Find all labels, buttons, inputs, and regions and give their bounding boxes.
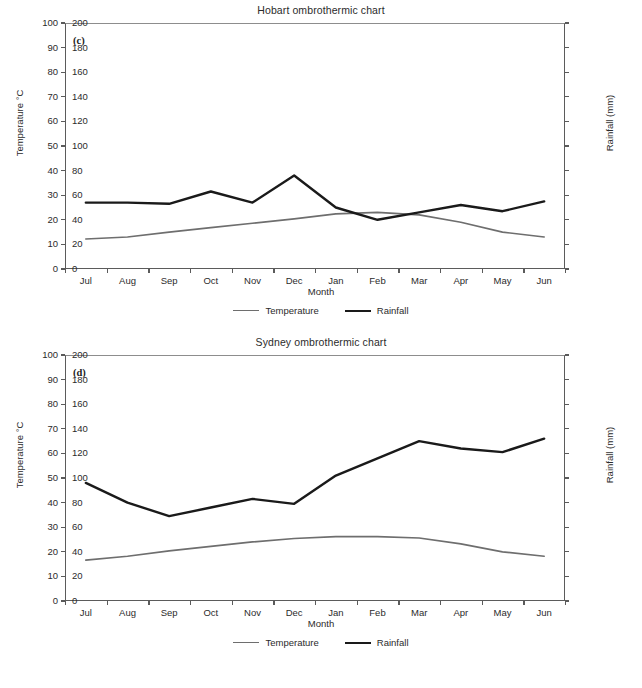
x-axis-tick bbox=[398, 269, 399, 273]
x-axis-tick bbox=[107, 269, 108, 273]
tick-mark bbox=[565, 477, 569, 478]
y-axis-left-tick-label: 30 bbox=[47, 190, 58, 200]
x-axis-tick-label: Jan bbox=[328, 275, 343, 286]
y-axis-left-tick-label: 10 bbox=[47, 239, 58, 249]
legend: TemperatureRainfall bbox=[0, 637, 642, 648]
x-axis-tick-label: Oct bbox=[203, 275, 218, 286]
legend-swatch-icon bbox=[233, 642, 259, 643]
x-axis-tick bbox=[315, 601, 316, 605]
y-axis-left-tick-label: 40 bbox=[47, 166, 58, 176]
x-axis-tick bbox=[357, 601, 358, 605]
x-axis-tick bbox=[232, 269, 233, 273]
x-axis-tick-label: Nov bbox=[244, 275, 261, 286]
y-axis-left-tick-label: 80 bbox=[47, 399, 58, 409]
x-axis-tick-label: Nov bbox=[244, 607, 261, 618]
tick-mark bbox=[565, 453, 569, 454]
x-axis-tick-label: Mar bbox=[411, 275, 427, 286]
y-axis-left-tick-label: 0 bbox=[53, 264, 58, 274]
x-axis-tick bbox=[482, 269, 483, 273]
ombrothermic-chart-hobart: Hobart ombrothermic chart (c) 0102030405… bbox=[0, 0, 642, 356]
x-axis-tick bbox=[273, 601, 274, 605]
y-axis-left-tick-label: 70 bbox=[47, 92, 58, 102]
legend-swatch-icon bbox=[345, 310, 371, 312]
x-axis-tick bbox=[440, 601, 441, 605]
x-axis-tick-label: May bbox=[494, 607, 512, 618]
y-axis-right-title: Rainfall (mm) bbox=[604, 332, 618, 578]
tick-mark bbox=[565, 404, 569, 405]
tick-mark bbox=[565, 527, 569, 528]
x-axis-tick bbox=[315, 269, 316, 273]
tick-mark bbox=[565, 170, 569, 171]
x-axis-tick bbox=[523, 269, 524, 273]
y-axis-right-title: Rainfall (mm) bbox=[604, 0, 618, 246]
x-axis-tick-label: Mar bbox=[411, 607, 427, 618]
x-axis-tick bbox=[107, 601, 108, 605]
tick-mark bbox=[565, 428, 569, 429]
tick-mark bbox=[565, 244, 569, 245]
plot-wrap: (c) 0102030405060708090100 0204060801001… bbox=[65, 23, 565, 269]
tick-mark bbox=[565, 47, 569, 48]
x-axis-tick bbox=[523, 601, 524, 605]
y-axis-left-tick-label: 50 bbox=[47, 473, 58, 483]
tick-mark bbox=[565, 145, 569, 146]
x-axis-tick-label: Sep bbox=[161, 275, 178, 286]
temperature-line bbox=[86, 537, 544, 561]
temperature-line bbox=[86, 212, 544, 239]
tick-mark bbox=[565, 551, 569, 552]
rainfall-line bbox=[86, 439, 544, 516]
y-axis-left-tick-label: 20 bbox=[47, 547, 58, 557]
x-axis-tick bbox=[273, 269, 274, 273]
x-axis-tick-label: Jun bbox=[536, 275, 551, 286]
legend-swatch-icon bbox=[345, 642, 371, 644]
x-axis-tick bbox=[357, 269, 358, 273]
x-axis-tick-label: Oct bbox=[203, 607, 218, 618]
y-axis-left-tick-label: 70 bbox=[47, 424, 58, 434]
x-axis-tick-label: Aug bbox=[119, 275, 136, 286]
x-axis-tick-label: Jul bbox=[80, 607, 92, 618]
y-axis-left-tick-label: 30 bbox=[47, 522, 58, 532]
x-axis-tick-label: Jul bbox=[80, 275, 92, 286]
x-axis-tick bbox=[232, 601, 233, 605]
y-axis-left-tick-label: 90 bbox=[47, 375, 58, 385]
rainfall-line bbox=[86, 176, 544, 220]
series-layer bbox=[65, 355, 565, 601]
legend-label: Rainfall bbox=[377, 637, 409, 648]
x-axis-tick bbox=[482, 601, 483, 605]
x-axis-tick bbox=[190, 269, 191, 273]
plot-wrap: (d) 0102030405060708090100 0204060801001… bbox=[65, 355, 565, 601]
x-axis-tick-label: Feb bbox=[369, 275, 385, 286]
legend-label: Temperature bbox=[265, 305, 318, 316]
legend-item-rainfall: Rainfall bbox=[345, 637, 409, 648]
x-axis-tick bbox=[440, 269, 441, 273]
legend-item-temperature: Temperature bbox=[233, 305, 318, 316]
y-axis-left-tick-label: 100 bbox=[42, 350, 58, 360]
y-axis-left-tick-label: 90 bbox=[47, 43, 58, 53]
x-axis-tick-label: Jan bbox=[328, 607, 343, 618]
x-axis-tick bbox=[148, 269, 149, 273]
y-axis-left-tick-label: 40 bbox=[47, 498, 58, 508]
tick-mark bbox=[565, 121, 569, 122]
tick-mark bbox=[565, 195, 569, 196]
legend-label: Rainfall bbox=[377, 305, 409, 316]
tick-mark bbox=[565, 379, 569, 380]
x-axis-tick bbox=[565, 269, 566, 273]
tick-mark bbox=[565, 72, 569, 73]
y-axis-left-tick-label: 50 bbox=[47, 141, 58, 151]
chart-title: Hobart ombrothermic chart bbox=[0, 4, 642, 16]
y-axis-left-tick-label: 100 bbox=[42, 18, 58, 28]
tick-mark bbox=[565, 22, 569, 23]
x-axis-title: Month bbox=[0, 286, 642, 297]
series-layer bbox=[65, 23, 565, 269]
y-axis-left-title: Temperature °C bbox=[14, 0, 28, 246]
ombrothermic-chart-sydney: Sydney ombrothermic chart (d) 0102030405… bbox=[0, 332, 642, 688]
x-axis-tick-label: Apr bbox=[453, 275, 468, 286]
tick-mark bbox=[565, 502, 569, 503]
x-axis-tick bbox=[148, 601, 149, 605]
legend-swatch-icon bbox=[233, 310, 259, 311]
x-axis-tick bbox=[398, 601, 399, 605]
x-axis-tick-label: Feb bbox=[369, 607, 385, 618]
x-axis-tick bbox=[65, 601, 66, 605]
y-axis-left-tick-label: 60 bbox=[47, 448, 58, 458]
x-axis-tick-label: Aug bbox=[119, 607, 136, 618]
y-axis-left-tick-label: 10 bbox=[47, 571, 58, 581]
